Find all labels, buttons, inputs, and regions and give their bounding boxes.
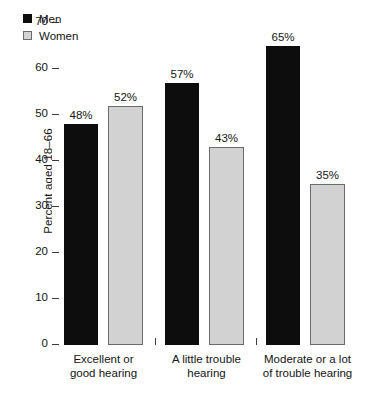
bar-women-group1[interactable]: 43%	[209, 147, 244, 345]
y-axis-tick-20: 20	[52, 252, 59, 253]
bar-value-label: 65%	[271, 31, 294, 43]
x-axis-group-separator-1	[256, 338, 257, 345]
y-axis-tick-label: 10	[35, 291, 48, 303]
legend-item-women: Women	[23, 27, 78, 44]
legend-label-men: Men	[39, 13, 61, 25]
y-axis-tick-label: 20	[35, 245, 48, 257]
plot-area: 70605040302010048%52%57%43%65%35%	[52, 23, 357, 345]
y-axis-tick-label: 30	[35, 199, 48, 211]
category-label-line: Excellent or	[52, 352, 155, 366]
category-label-line: hearing	[155, 366, 258, 380]
bar-value-label: 52%	[114, 91, 137, 103]
y-axis-tick-label: 40	[35, 153, 48, 165]
legend-swatch-women-icon	[23, 31, 32, 40]
bar-value-label: 57%	[170, 68, 193, 80]
bar-men-group1[interactable]: 57%	[165, 83, 199, 345]
bar-women-group2[interactable]: 35%	[310, 184, 345, 345]
category-label-line: A little trouble	[155, 352, 258, 366]
x-axis-category-label-1: A little troublehearing	[155, 352, 258, 380]
bar-value-label: 35%	[316, 169, 339, 181]
y-axis-tick-10: 10	[52, 298, 59, 299]
chart-legend: Men Women	[23, 10, 78, 44]
bar-value-label: 48%	[69, 109, 92, 121]
bar-men-group0[interactable]: 48%	[64, 124, 98, 345]
y-axis-tick-40: 40	[52, 160, 59, 161]
category-label-line: Moderate or a lot	[256, 352, 359, 366]
x-axis-category-label-2: Moderate or a lotof trouble hearing	[256, 352, 359, 380]
category-label-line: of trouble hearing	[256, 366, 359, 380]
legend-label-women: Women	[39, 30, 78, 42]
legend-swatch-men-icon	[23, 14, 32, 23]
category-label-line: good hearing	[52, 366, 155, 380]
y-axis-tick-50: 50	[52, 114, 59, 115]
x-axis-group-separator-0	[155, 338, 156, 345]
legend-item-men: Men	[23, 10, 78, 27]
bar-women-group0[interactable]: 52%	[108, 106, 143, 345]
y-axis-tick-label: 0	[42, 337, 48, 349]
y-axis-tick-label: 60	[35, 61, 48, 73]
bar-value-label: 43%	[215, 132, 238, 144]
y-axis-tick-30: 30	[52, 206, 59, 207]
y-axis-tick-60: 60	[52, 68, 59, 69]
x-axis-category-label-0: Excellent orgood hearing	[52, 352, 155, 380]
y-axis-tick-label: 50	[35, 107, 48, 119]
bar-men-group2[interactable]: 65%	[266, 46, 300, 345]
y-axis-tick-0: 0	[52, 344, 59, 345]
bar-chart-figure: Percent aged 18–66 70605040302010048%52%…	[0, 0, 378, 395]
